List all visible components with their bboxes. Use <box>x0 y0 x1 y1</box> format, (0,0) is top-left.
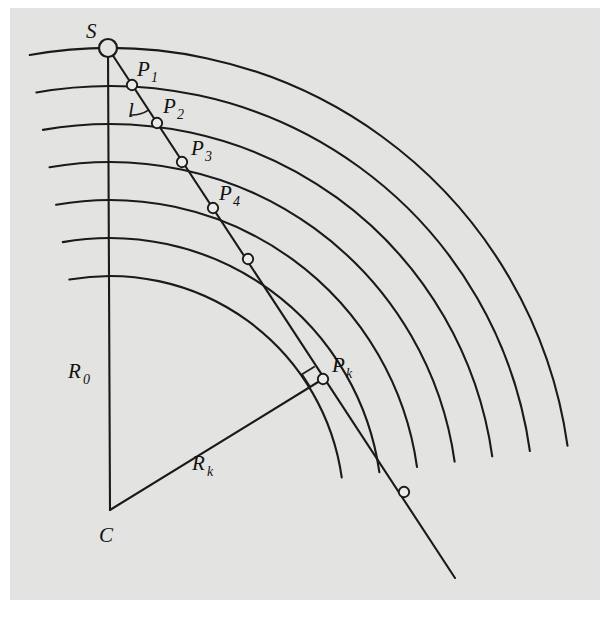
label-p2-subscript: 2 <box>177 107 184 122</box>
point-marker-p3 <box>177 157 187 167</box>
figure-panel <box>10 8 600 600</box>
source-point-marker <box>99 39 117 57</box>
label-p1-letter: P <box>136 57 150 81</box>
point-marker-p5 <box>243 254 253 264</box>
label-p2-letter: P <box>162 94 176 118</box>
point-marker-pk <box>318 374 328 384</box>
label-pk-subscript: k <box>346 366 353 381</box>
label-p1-subscript: 1 <box>151 70 158 85</box>
label-rk-subscript: k <box>207 464 214 479</box>
label-p4-letter: P <box>218 181 232 205</box>
label-angle: l <box>128 98 134 122</box>
figure-container: S P 1 P 2 P 3 P 4 P k l R 0 R k <box>0 0 612 625</box>
label-center: C <box>99 523 114 547</box>
point-marker-p1 <box>127 80 137 90</box>
point-marker-p4 <box>208 203 218 213</box>
label-p3-subscript: 3 <box>204 149 212 164</box>
label-r0-subscript: 0 <box>83 372 90 387</box>
label-rk-letter: R <box>191 451 205 475</box>
label-p4-subscript: 4 <box>233 194 240 209</box>
point-marker-p7 <box>399 487 409 497</box>
point-marker-p2 <box>152 118 162 128</box>
geometry-diagram: S P 1 P 2 P 3 P 4 P k l R 0 R k <box>0 0 612 625</box>
label-source: S <box>86 19 97 43</box>
label-pk-letter: P <box>331 353 345 377</box>
label-p3-letter: P <box>190 136 204 160</box>
label-r0-letter: R <box>67 359 81 383</box>
